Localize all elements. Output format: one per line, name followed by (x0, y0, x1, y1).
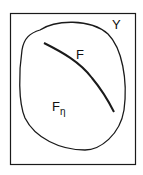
label-f: F (76, 47, 84, 62)
label-f-eta-subscript: η (60, 106, 66, 117)
label-y: Y (112, 17, 121, 32)
diagram-canvas: Y F Fη (0, 0, 143, 175)
label-f-eta: Fη (52, 99, 66, 117)
label-f-eta-base: F (52, 99, 60, 114)
neighborhood-ellipse (20, 22, 126, 150)
